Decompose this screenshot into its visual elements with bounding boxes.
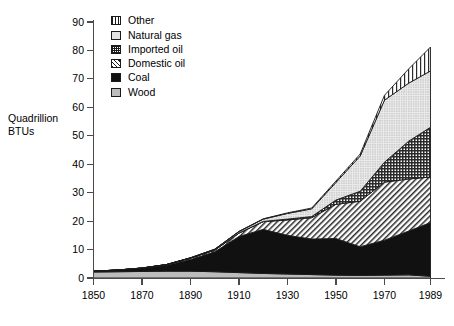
y-tick-label-30: 30 — [58, 187, 84, 198]
y-tick-80 — [87, 50, 93, 51]
legend-item-wood: Wood — [111, 85, 231, 99]
x-tick-1870 — [141, 279, 142, 285]
y-axis-line — [93, 20, 94, 279]
x-tick-label-1870: 1870 — [122, 290, 162, 301]
y-tick-label-20: 20 — [58, 216, 84, 227]
x-tick-1930 — [287, 279, 288, 285]
legend-label: Natural gas — [128, 30, 182, 41]
y-tick-50 — [87, 135, 93, 136]
y-tick-20 — [87, 221, 93, 222]
y-tick-label-50: 50 — [58, 130, 84, 141]
x-tick-1989 — [430, 279, 431, 285]
x-tick-1890 — [190, 279, 191, 285]
y-tick-10 — [87, 249, 93, 250]
y-tick-label-80: 80 — [58, 45, 84, 56]
x-tick-1950 — [335, 279, 336, 285]
legend-label: Imported oil — [128, 44, 183, 55]
legend-label: Other — [128, 15, 154, 26]
legend-item-coal: Coal — [111, 71, 231, 85]
y-tick-label-40: 40 — [58, 159, 84, 170]
legend-label: Coal — [128, 72, 150, 83]
fine-dot-pattern-icon — [111, 31, 121, 40]
legend-item-other: Other — [111, 14, 231, 28]
x-tick-label-1850: 1850 — [74, 290, 114, 301]
light-gray-fill-icon — [111, 88, 121, 97]
solid-fill-icon — [111, 73, 121, 82]
x-tick-1970 — [384, 279, 385, 285]
legend: OtherNatural gasImported oilDomestic oil… — [111, 14, 231, 100]
y-tick-40 — [87, 164, 93, 165]
diagonal-hatch-pattern-icon — [111, 59, 121, 68]
y-tick-label-70: 70 — [58, 73, 84, 84]
x-axis-line — [93, 278, 445, 279]
y-tick-label-60: 60 — [58, 102, 84, 113]
x-tick-label-1970: 1970 — [364, 290, 404, 301]
x-tick-1850 — [93, 279, 94, 285]
legend-item-domestic-oil: Domestic oil — [111, 57, 231, 71]
y-tick-label-0: 0 — [58, 273, 84, 284]
x-tick-label-1910: 1910 — [219, 290, 259, 301]
y-tick-label-90: 90 — [58, 17, 84, 28]
y-tick-90 — [87, 21, 93, 22]
legend-item-imported-oil: Imported oil — [111, 43, 231, 57]
legend-label: Domestic oil — [128, 58, 185, 69]
x-tick-label-1989: 1989 — [411, 290, 451, 301]
x-tick-label-1930: 1930 — [267, 290, 307, 301]
y-tick-60 — [87, 107, 93, 108]
y-tick-30 — [87, 192, 93, 193]
y-tick-70 — [87, 78, 93, 79]
crosshatch-pattern-icon — [111, 45, 121, 54]
energy-consumption-area-chart: Quadrillion BTUs — [0, 0, 454, 326]
legend-label: Wood — [128, 87, 155, 98]
x-tick-label-1890: 1890 — [170, 290, 210, 301]
x-tick-1910 — [238, 279, 239, 285]
vertical-stripe-pattern-icon — [111, 16, 121, 25]
y-tick-label-10: 10 — [58, 244, 84, 255]
legend-item-natural-gas: Natural gas — [111, 28, 231, 42]
x-tick-label-1950: 1950 — [316, 290, 356, 301]
